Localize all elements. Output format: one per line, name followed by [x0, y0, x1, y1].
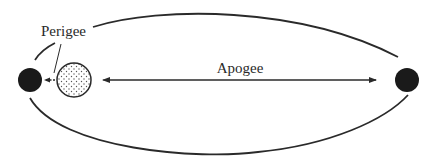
- apogee-label: Apogee: [217, 60, 264, 76]
- earth: [57, 63, 91, 97]
- moon-apogee: [395, 68, 419, 92]
- perigee-label: Perigee: [41, 23, 86, 39]
- perigee-leader-line: [54, 44, 61, 73]
- moon-perigee: [18, 68, 42, 92]
- orbit-diagram: Perigee Apogee: [0, 0, 434, 166]
